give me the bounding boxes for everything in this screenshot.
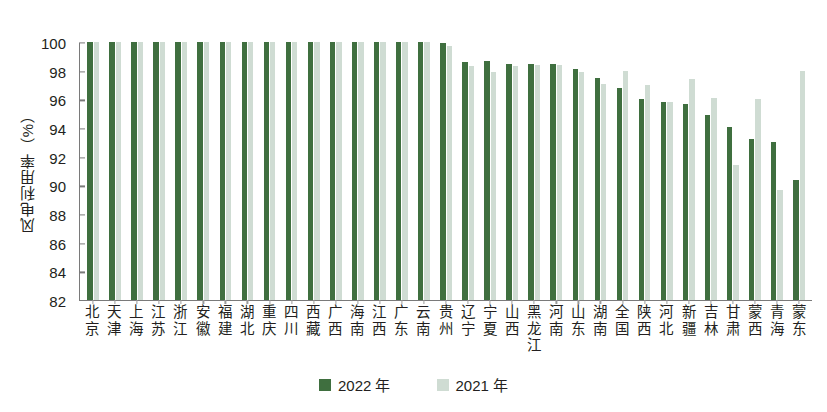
bar-y2022[interactable] (793, 180, 798, 300)
bar-y2022[interactable] (374, 42, 379, 300)
bar-y2022[interactable] (749, 139, 754, 300)
bar-y2022[interactable] (352, 42, 357, 300)
bar-y2022[interactable] (197, 42, 202, 300)
bar-group[interactable] (236, 43, 258, 300)
bar-y2021[interactable] (645, 85, 650, 300)
bar-y2021[interactable] (94, 42, 99, 300)
bar-y2021[interactable] (424, 42, 429, 300)
bar-group[interactable] (634, 43, 656, 300)
bar-group[interactable] (369, 43, 391, 300)
bar-group[interactable] (347, 43, 369, 300)
bar-y2022[interactable] (727, 127, 732, 300)
bar-y2021[interactable] (380, 42, 385, 300)
bar-y2021[interactable] (469, 66, 474, 300)
bar-y2021[interactable] (579, 72, 584, 300)
bar-y2021[interactable] (160, 42, 165, 300)
bar-y2022[interactable] (506, 64, 511, 301)
bar-group[interactable] (788, 43, 810, 300)
bar-group[interactable] (656, 43, 678, 300)
bar-group[interactable] (678, 43, 700, 300)
bar-group[interactable] (700, 43, 722, 300)
bar-group[interactable] (214, 43, 236, 300)
bar-y2021[interactable] (226, 42, 231, 300)
bar-y2022[interactable] (484, 61, 489, 300)
bar-y2021[interactable] (667, 102, 672, 300)
bar-group[interactable] (148, 43, 170, 300)
bar-y2021[interactable] (182, 42, 187, 300)
bar-y2022[interactable] (87, 42, 92, 300)
bar-y2021[interactable] (292, 42, 297, 300)
bar-group[interactable] (435, 43, 457, 300)
bar-y2021[interactable] (623, 71, 628, 300)
bar-y2022[interactable] (705, 115, 710, 300)
bar-group[interactable] (501, 43, 523, 300)
bar-y2021[interactable] (336, 42, 341, 300)
bar-y2021[interactable] (601, 84, 606, 300)
bar-y2021[interactable] (689, 79, 694, 300)
bar-group[interactable] (303, 43, 325, 300)
bar-y2022[interactable] (683, 104, 688, 300)
bar-y2021[interactable] (314, 42, 319, 300)
bar-y2022[interactable] (771, 142, 776, 300)
bar-y2022[interactable] (418, 42, 423, 300)
bar-y2022[interactable] (396, 42, 401, 300)
bar-y2021[interactable] (138, 42, 143, 300)
bar-group[interactable] (567, 43, 589, 300)
bar-group[interactable] (391, 43, 413, 300)
bar-group[interactable] (722, 43, 744, 300)
bar-y2022[interactable] (661, 102, 666, 300)
bar-group[interactable] (192, 43, 214, 300)
bar-y2022[interactable] (573, 69, 578, 300)
bar-y2021[interactable] (402, 42, 407, 300)
bar-y2022[interactable] (528, 64, 533, 301)
bar-group[interactable] (281, 43, 303, 300)
bar-group[interactable] (523, 43, 545, 300)
bar-y2021[interactable] (116, 42, 121, 300)
bar-y2022[interactable] (440, 43, 445, 300)
bar-y2021[interactable] (800, 71, 805, 300)
bar-y2022[interactable] (617, 88, 622, 300)
bar-y2022[interactable] (264, 42, 269, 300)
bar-y2022[interactable] (462, 62, 467, 300)
bar-y2021[interactable] (358, 42, 363, 300)
bar-y2022[interactable] (153, 42, 158, 300)
bar-y2021[interactable] (248, 42, 253, 300)
bar-group[interactable] (170, 43, 192, 300)
bar-group[interactable] (744, 43, 766, 300)
bar-y2022[interactable] (550, 64, 555, 301)
bar-y2021[interactable] (777, 190, 782, 300)
bar-y2022[interactable] (242, 42, 247, 300)
bar-group[interactable] (259, 43, 281, 300)
bar-y2021[interactable] (535, 65, 540, 300)
bar-y2022[interactable] (639, 99, 644, 300)
bar-group[interactable] (612, 43, 634, 300)
bar-y2021[interactable] (513, 66, 518, 300)
bar-y2022[interactable] (109, 42, 114, 300)
bar-group[interactable] (413, 43, 435, 300)
legend-item[interactable]: 2022 年 (319, 374, 391, 395)
bar-group[interactable] (325, 43, 347, 300)
bar-y2022[interactable] (131, 42, 136, 300)
bar-y2021[interactable] (270, 42, 275, 300)
bar-y2021[interactable] (557, 65, 562, 300)
bar-group[interactable] (82, 43, 104, 300)
bar-group[interactable] (766, 43, 788, 300)
bar-group[interactable] (545, 43, 567, 300)
legend-item[interactable]: 2021 年 (437, 374, 509, 395)
bar-y2021[interactable] (491, 72, 496, 300)
bar-y2022[interactable] (175, 42, 180, 300)
bar-group[interactable] (479, 43, 501, 300)
bar-group[interactable] (457, 43, 479, 300)
bar-group[interactable] (589, 43, 611, 300)
bar-y2022[interactable] (220, 42, 225, 300)
bar-group[interactable] (126, 43, 148, 300)
bar-group[interactable] (104, 43, 126, 300)
bar-y2021[interactable] (711, 98, 716, 300)
bar-y2021[interactable] (755, 99, 760, 300)
bar-y2022[interactable] (308, 42, 313, 300)
bar-y2022[interactable] (595, 78, 600, 300)
bar-y2021[interactable] (447, 46, 452, 300)
bar-y2022[interactable] (330, 42, 335, 300)
bar-y2021[interactable] (204, 42, 209, 300)
bar-y2022[interactable] (286, 42, 291, 300)
